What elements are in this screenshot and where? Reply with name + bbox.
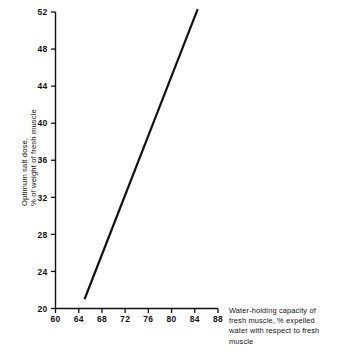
x-tick-label: 84 <box>190 314 200 324</box>
y-tick-label: 36 <box>37 155 47 165</box>
x-tick-label: 80 <box>167 314 177 324</box>
y-tick-label: 24 <box>37 267 47 277</box>
x-tick-label: 64 <box>74 314 84 324</box>
x-axis-title-line3: water with respect to fresh <box>229 326 337 336</box>
chart-figure: 202428323640444852 6064687276808488 Opti… <box>0 0 339 358</box>
data-series-group <box>85 9 198 299</box>
y-tick-label: 52 <box>37 7 47 17</box>
x-tick-label: 60 <box>50 314 60 324</box>
y-tick-label: 20 <box>37 304 47 314</box>
y-tick-label: 48 <box>37 44 47 54</box>
x-axis-title-line2: fresh muscle, % expelled <box>229 316 337 326</box>
y-axis-title-line2: % of weight of fresh muscle <box>29 109 38 206</box>
y-tick-label: 44 <box>37 81 47 91</box>
x-axis-ticks: 6064687276808488 <box>50 309 223 325</box>
x-axis-title-line1: Water-holding capacity of <box>229 306 337 316</box>
data-line <box>85 9 198 299</box>
x-axis-title-line4: muscle <box>229 337 337 347</box>
x-tick-label: 88 <box>213 314 223 324</box>
x-axis-title: Water-holding capacity of fresh muscle, … <box>229 306 337 347</box>
x-tick-label: 72 <box>120 314 130 324</box>
y-axis-title-line1: Optimum salt dose, <box>20 138 29 206</box>
y-tick-label: 28 <box>37 230 47 240</box>
y-axis-ticks: 202428323640444852 <box>37 7 55 314</box>
y-tick-label: 40 <box>37 118 47 128</box>
x-tick-label: 68 <box>97 314 107 324</box>
x-tick-label: 76 <box>143 314 153 324</box>
y-tick-label: 32 <box>37 193 47 203</box>
y-axis-title: Optimum salt dose, % of weight of fresh … <box>20 109 38 206</box>
chart-plot-area: 202428323640444852 6064687276808488 Opti… <box>0 0 339 358</box>
